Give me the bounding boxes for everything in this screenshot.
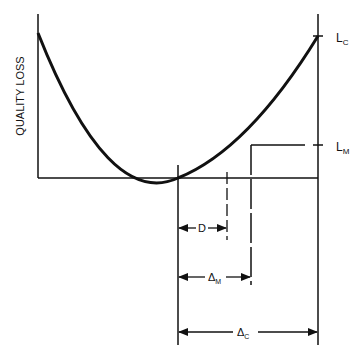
y-axis-label: QUALITY LOSS	[14, 56, 26, 135]
delta-m-label: ΔM	[208, 271, 221, 285]
delta-c-label: ΔC	[237, 326, 249, 340]
loss-curve	[38, 33, 318, 183]
d-label: D	[198, 222, 206, 234]
lc-label: LC	[336, 31, 349, 47]
quality-loss-diagram: QUALITY LOSS LC LM D ΔM ΔC	[0, 0, 363, 361]
lm-label: LM	[336, 140, 350, 156]
